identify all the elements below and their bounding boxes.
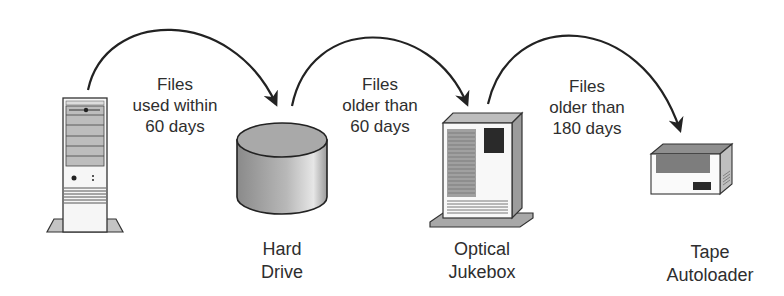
edge-label-line: 60 days <box>120 116 230 137</box>
edge-label-hard-drive-to-optical-jukebox: Files older than 60 days <box>330 74 430 137</box>
node-label-line: Tape <box>650 241 770 264</box>
edge-label-server-to-hard-drive: Files used within 60 days <box>120 74 230 137</box>
optical-jukebox-icon <box>430 113 533 227</box>
node-label-optical-jukebox: Optical Jukebox <box>432 238 532 284</box>
tape-autoloader-icon <box>651 144 732 194</box>
edge-label-line: older than <box>330 95 430 116</box>
node-label-line: Hard <box>237 238 327 261</box>
node-label-line: Jukebox <box>432 261 532 284</box>
node-label-line: Drive <box>237 261 327 284</box>
node-label-line: Optical <box>432 238 532 261</box>
node-label-line: Autoloader <box>650 264 770 287</box>
edge-label-line: Files <box>120 74 230 95</box>
edge-label-line: Files <box>330 74 430 95</box>
hard-drive-cylinder-icon <box>237 123 327 214</box>
edge-label-line: used within <box>120 95 230 116</box>
server-tower-icon <box>47 98 123 232</box>
edge-label-line: Files <box>537 76 637 97</box>
edge-label-line: 180 days <box>537 118 637 139</box>
edge-label-optical-jukebox-to-tape-autoloader: Files older than 180 days <box>537 76 637 139</box>
edge-label-line: older than <box>537 97 637 118</box>
node-label-tape-autoloader: Tape Autoloader <box>650 241 770 287</box>
node-label-hard-drive: Hard Drive <box>237 238 327 284</box>
edge-label-line: 60 days <box>330 116 430 137</box>
